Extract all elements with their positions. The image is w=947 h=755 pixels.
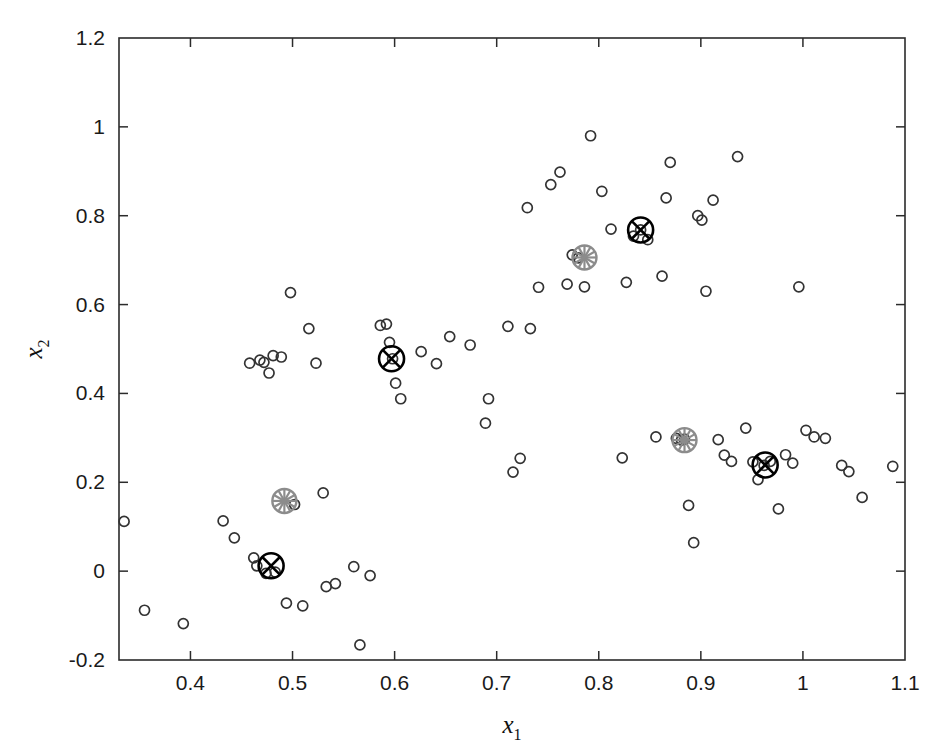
data-point <box>708 195 718 205</box>
y-tick-label: 1 <box>93 115 105 138</box>
data-point <box>665 157 675 167</box>
data-point <box>119 516 129 526</box>
data-point <box>621 277 631 287</box>
data-point <box>381 319 391 329</box>
x-tick-label: 0.4 <box>176 671 206 694</box>
data-point <box>684 500 694 510</box>
data-point <box>597 186 607 196</box>
data-point <box>484 394 494 404</box>
data-point <box>355 640 365 650</box>
initial-centroid-marker <box>572 245 596 269</box>
data-point <box>820 433 830 443</box>
data-point <box>304 324 314 334</box>
data-point <box>311 358 321 368</box>
data-point <box>586 131 596 141</box>
data-point <box>555 167 565 177</box>
scatter-plot-figure: -0.200.20.40.60.811.2 0.40.50.60.70.80.9… <box>0 0 947 755</box>
data-point <box>285 288 295 298</box>
data-point <box>522 203 532 213</box>
data-point <box>781 450 791 460</box>
data-point <box>617 453 627 463</box>
data-point <box>657 271 667 281</box>
data-point <box>651 432 661 442</box>
data-point <box>245 358 255 368</box>
data-point <box>661 193 671 203</box>
data-point <box>431 359 441 369</box>
data-point <box>508 467 518 477</box>
data-point <box>689 538 699 548</box>
data-point <box>298 601 308 611</box>
data-point <box>525 324 535 334</box>
y-axis-title: x2 <box>20 339 52 359</box>
data-point <box>330 579 340 589</box>
data-point <box>218 516 228 526</box>
x-tick-label: 0.6 <box>380 671 409 694</box>
y-tick-label: 0.8 <box>76 204 105 227</box>
data-point <box>178 619 188 629</box>
data-point <box>229 533 239 543</box>
data-point <box>788 458 798 468</box>
data-point <box>396 394 406 404</box>
data-point <box>844 467 854 477</box>
final-centroid-marker <box>628 217 653 242</box>
initial-centroids-layer <box>272 245 696 512</box>
y-tick-label: 0.6 <box>76 293 105 316</box>
data-point <box>416 347 426 357</box>
data-point <box>515 453 525 463</box>
data-point <box>546 180 556 190</box>
data-point <box>503 321 513 331</box>
initial-centroid-marker <box>272 489 296 513</box>
x-axis-title: x1 <box>501 711 521 743</box>
data-point <box>562 279 572 289</box>
data-point <box>281 598 291 608</box>
data-point <box>773 504 783 514</box>
data-points-layer <box>119 131 898 650</box>
y-tick-label: 0 <box>93 559 105 582</box>
data-point <box>794 282 804 292</box>
data-point <box>365 571 375 581</box>
y-axis-ticks: -0.200.20.40.60.811.2 <box>69 26 905 671</box>
y-tick-label: 0.4 <box>76 381 106 404</box>
data-point <box>726 456 736 466</box>
data-point <box>809 432 819 442</box>
data-point <box>606 224 616 234</box>
data-point <box>140 605 150 615</box>
data-point <box>579 282 589 292</box>
data-point <box>534 282 544 292</box>
x-tick-label: 1 <box>797 671 809 694</box>
x-tick-label: 0.5 <box>278 671 307 694</box>
initial-centroid-marker <box>673 428 697 452</box>
plot-frame <box>119 38 905 660</box>
y-tick-label: 0.2 <box>76 470 105 493</box>
y-tick-label: -0.2 <box>69 648 105 671</box>
data-point <box>741 423 751 433</box>
final-centroid-marker <box>379 346 404 371</box>
data-point <box>888 461 898 471</box>
data-point <box>318 488 328 498</box>
data-point <box>264 368 274 378</box>
data-point <box>713 435 723 445</box>
data-point <box>349 562 359 572</box>
data-point <box>465 340 475 350</box>
data-point <box>445 332 455 342</box>
y-tick-label: 1.2 <box>76 26 105 49</box>
plot-canvas: -0.200.20.40.60.811.2 0.40.50.60.70.80.9… <box>0 0 947 755</box>
data-point <box>701 286 711 296</box>
x-tick-label: 0.7 <box>482 671 511 694</box>
x-tick-label: 1.1 <box>890 671 919 694</box>
x-axis-ticks: 0.40.50.60.70.80.911.1 <box>176 38 920 694</box>
x-tick-label: 0.8 <box>584 671 613 694</box>
data-point <box>480 418 490 428</box>
data-point <box>391 378 401 388</box>
data-point <box>857 492 867 502</box>
data-point <box>733 152 743 162</box>
x-tick-label: 0.9 <box>686 671 715 694</box>
final-centroids-layer <box>259 217 778 578</box>
